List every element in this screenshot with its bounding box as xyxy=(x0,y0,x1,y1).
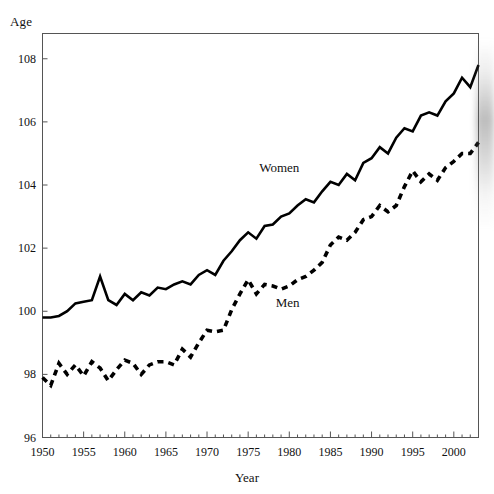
y-tick-label: 104 xyxy=(2,179,36,191)
plot-area xyxy=(0,0,494,494)
x-tick-label: 2000 xyxy=(431,446,477,458)
y-tick-label: 100 xyxy=(2,305,36,317)
y-tick-label: 108 xyxy=(2,53,36,65)
x-tick-label: 1960 xyxy=(102,446,148,458)
x-tick-label: 1985 xyxy=(307,446,353,458)
x-tick-label: 1975 xyxy=(225,446,271,458)
series-label-women: Women xyxy=(259,160,299,176)
x-axis-title: Year xyxy=(0,470,494,486)
x-tick-label: 1980 xyxy=(266,446,312,458)
x-tick-label: 1995 xyxy=(390,446,436,458)
x-tick-label: 1950 xyxy=(20,446,66,458)
series-label-men: Men xyxy=(276,295,300,311)
y-tick-label: 96 xyxy=(2,432,36,444)
series-line-women xyxy=(43,65,479,318)
x-tick-label: 1965 xyxy=(143,446,189,458)
chart-figure: Age 9698100102104106108 1950195519601965… xyxy=(0,0,494,494)
y-tick-label: 106 xyxy=(2,116,36,128)
x-tick-label: 1970 xyxy=(184,446,230,458)
y-tick-label: 102 xyxy=(2,242,36,254)
x-tick-label: 1990 xyxy=(349,446,395,458)
data-series-group xyxy=(43,65,479,385)
y-tick-label: 98 xyxy=(2,368,36,380)
series-line-men xyxy=(43,142,479,385)
x-tick-marks xyxy=(43,432,479,438)
x-tick-label: 1955 xyxy=(61,446,107,458)
